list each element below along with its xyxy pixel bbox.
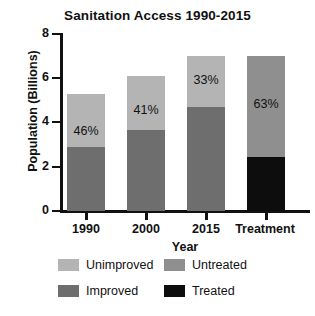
y-tick-2 [52, 166, 61, 168]
bar-group-2015: 33% [187, 56, 225, 211]
x-axis-label-treatment: Treatment [227, 222, 303, 236]
y-tick-8 [52, 33, 61, 35]
bar-value-label-2000: 41% [127, 104, 165, 117]
x-tick-treatment [265, 212, 268, 220]
bar-segment-improved-2015 [187, 107, 225, 211]
bar-value-label-1990: 46% [67, 125, 105, 138]
bar-segment-treated-treatment [247, 157, 285, 211]
plot-area: 8 6 4 2 0 Population (Billions) 46% 41% … [0, 0, 315, 250]
y-tick-6 [52, 77, 61, 79]
legend-label-untreated: Untreated [192, 258, 247, 272]
bar-group-1990: 46% [67, 94, 105, 211]
y-tick-0 [52, 210, 61, 212]
legend-item-treated: Treated [164, 284, 235, 298]
legend-label-improved: Improved [86, 284, 138, 298]
bar-segment-improved-2000 [127, 130, 165, 211]
legend-label-unimproved: Unimproved [86, 258, 153, 272]
x-tick-1990 [85, 212, 88, 220]
bar-segment-unimproved-1990 [67, 94, 105, 147]
chart-legend: Unimproved Untreated Improved Treated [0, 258, 315, 314]
legend-swatch-unimproved-icon [58, 259, 79, 271]
legend-swatch-untreated-icon [164, 259, 185, 271]
legend-item-unimproved: Unimproved [58, 258, 153, 272]
y-axis-title: Population (Billions) [26, 26, 40, 196]
bar-value-label-treatment: 63% [247, 98, 285, 111]
legend-label-treated: Treated [192, 284, 235, 298]
bar-value-label-2015: 33% [187, 74, 225, 87]
bar-group-treatment: 63% [247, 56, 285, 211]
x-tick-2015 [205, 212, 208, 220]
y-axis-line [60, 33, 63, 213]
x-axis-title: Year [60, 240, 310, 254]
y-tick-4 [52, 121, 61, 123]
y-tick-label-0: 0 [9, 204, 49, 217]
bar-group-2000: 41% [127, 76, 165, 211]
legend-swatch-improved-icon [58, 285, 79, 297]
bar-segment-improved-1990 [67, 147, 105, 211]
legend-item-improved: Improved [58, 284, 138, 298]
legend-item-untreated: Untreated [164, 258, 247, 272]
x-axis-label-1990: 1990 [56, 222, 116, 236]
legend-swatch-treated-icon [164, 285, 185, 297]
x-tick-2000 [145, 212, 148, 220]
x-axis-label-2000: 2000 [116, 222, 176, 236]
